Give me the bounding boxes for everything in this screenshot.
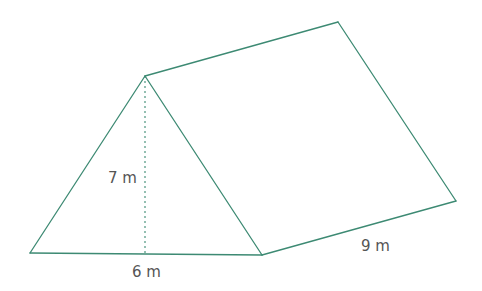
edge-front-base: [30, 253, 262, 255]
edge-back-slope: [338, 22, 456, 201]
prism-figure: 7 m 6 m 9 m: [0, 0, 482, 291]
diagram-canvas: 7 m 6 m 9 m: [0, 0, 482, 291]
edge-front-right: [145, 76, 262, 255]
length-label: 9 m: [361, 237, 390, 255]
edge-bottom-length: [262, 201, 456, 255]
height-label: 7 m: [108, 169, 137, 187]
base-label: 6 m: [132, 263, 161, 281]
edge-front-left: [30, 76, 145, 253]
edge-top-ridge: [145, 22, 338, 76]
